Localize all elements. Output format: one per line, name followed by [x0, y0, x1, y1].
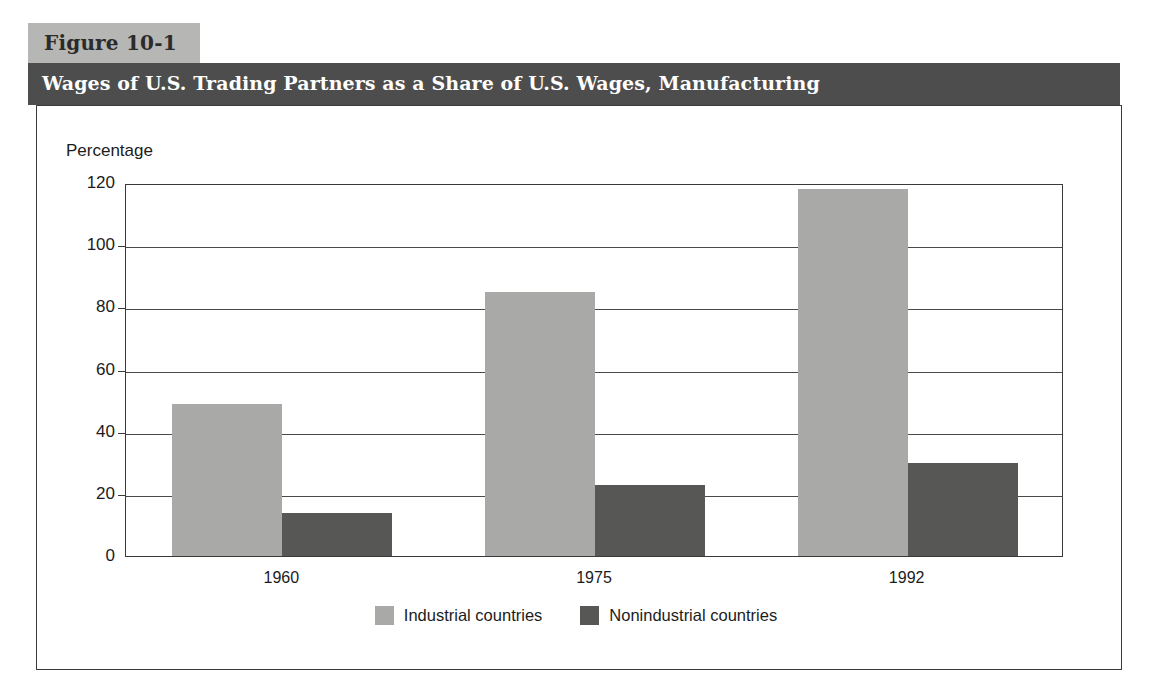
bar-1960-nonindustrial — [282, 513, 392, 557]
x-tick-label-1960: 1960 — [231, 569, 331, 587]
y-tick-label: 40 — [59, 422, 115, 442]
y-tick-label: 80 — [59, 297, 115, 317]
gridline-100 — [126, 247, 1062, 248]
y-tick-label: 120 — [59, 173, 115, 193]
y-tick-label: 0 — [59, 546, 115, 566]
bar-1992-nonindustrial — [908, 463, 1018, 556]
bar-1975-industrial — [485, 292, 595, 556]
y-tick-label: 20 — [59, 484, 115, 504]
figure-number-tab: Figure 10-1 — [28, 23, 200, 63]
y-tick-mark — [118, 246, 125, 247]
legend-swatch-icon — [580, 606, 599, 625]
chart-legend: Industrial countriesNonindustrial countr… — [0, 606, 1152, 625]
y-tick-mark — [118, 495, 125, 496]
legend-item-industrial: Industrial countries — [375, 606, 543, 625]
figure-title: Wages of U.S. Trading Partners as a Shar… — [42, 72, 820, 94]
legend-label: Industrial countries — [404, 606, 543, 625]
y-tick-mark — [118, 371, 125, 372]
y-tick-label: 60 — [59, 360, 115, 380]
y-tick-label: 100 — [59, 235, 115, 255]
plot-area — [125, 184, 1063, 557]
bar-1992-industrial — [798, 189, 908, 556]
figure-container: Figure 10-1 Wages of U.S. Trading Partne… — [0, 0, 1152, 680]
x-tick-label-1975: 1975 — [544, 569, 644, 587]
legend-item-nonindustrial: Nonindustrial countries — [580, 606, 777, 625]
bar-1975-nonindustrial — [595, 485, 705, 557]
y-axis-title: Percentage — [66, 141, 153, 161]
bar-1960-industrial — [172, 404, 282, 556]
figure-number-label: Figure 10-1 — [44, 31, 177, 55]
y-tick-mark — [118, 433, 125, 434]
x-tick-label-1992: 1992 — [857, 569, 957, 587]
legend-label: Nonindustrial countries — [609, 606, 777, 625]
figure-title-bar: Wages of U.S. Trading Partners as a Shar… — [28, 63, 1120, 105]
legend-swatch-icon — [375, 606, 394, 625]
y-tick-mark — [118, 308, 125, 309]
